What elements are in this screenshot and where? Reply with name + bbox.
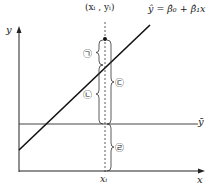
label-nieun: ㉡	[83, 88, 92, 101]
y-axis-arrow-icon	[17, 26, 22, 33]
brace-giyeok	[96, 40, 103, 65]
x-axis-arrow-icon	[198, 169, 205, 174]
point-label: (xᵢ , yᵢ)	[85, 2, 114, 12]
regression-equation-label: ŷ = β̂₀ + β̂₁x	[148, 3, 205, 14]
y-axis-label: y	[6, 24, 12, 35]
brace-digeut	[107, 40, 114, 124]
data-point	[103, 37, 107, 41]
x-axis-label: x	[197, 174, 203, 185]
xi-label: xᵢ	[100, 173, 107, 184]
label-giyeok: ㉠	[83, 47, 92, 60]
mean-label: ȳ	[198, 116, 204, 127]
regression-diagram	[0, 0, 221, 188]
label-digeut: ㉢	[115, 76, 124, 89]
label-rieul: ㉣	[115, 141, 124, 154]
brace-rieul	[107, 124, 114, 171]
